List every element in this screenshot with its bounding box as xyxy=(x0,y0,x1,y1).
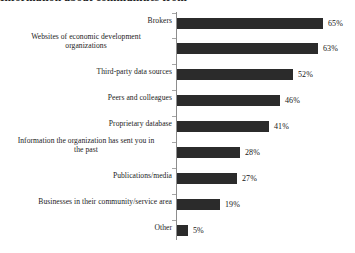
bar-value-label: 27% xyxy=(242,174,257,183)
bar-value-label: 52% xyxy=(298,70,313,79)
bar xyxy=(177,147,240,158)
bar-chart: Information about communities from Broke… xyxy=(0,0,355,253)
axis-tick xyxy=(172,220,176,221)
axis-tick xyxy=(172,90,176,91)
axis-tick xyxy=(172,168,176,169)
bar-value-label: 19% xyxy=(225,200,240,209)
category-label: Third-party data sources xyxy=(0,67,172,76)
bar xyxy=(177,18,323,29)
bar xyxy=(177,43,318,54)
bar-value-label: 28% xyxy=(245,148,260,157)
category-label: Brokers xyxy=(0,16,172,25)
bar xyxy=(177,225,188,236)
bar xyxy=(177,121,269,132)
bar xyxy=(177,199,220,210)
category-label-line: Websites of economic development xyxy=(0,32,172,41)
axis-tick xyxy=(172,13,176,14)
category-label: Businesses in their community/service ar… xyxy=(0,197,172,206)
axis-tick xyxy=(172,116,176,117)
axis-tick xyxy=(172,38,176,39)
chart-title: Information about communities from xyxy=(0,0,250,5)
category-label: Information the organization has sent yo… xyxy=(0,136,172,155)
bar xyxy=(177,69,293,80)
axis-tick xyxy=(172,64,176,65)
bar-value-label: 5% xyxy=(193,226,204,235)
bar-value-label: 41% xyxy=(274,122,289,131)
bar-value-label: 46% xyxy=(285,96,300,105)
category-label-line: the past xyxy=(0,145,172,154)
category-label: Websites of economic developmentorganiza… xyxy=(0,32,172,51)
axis-tick xyxy=(172,142,176,143)
category-label: Proprietary database xyxy=(0,119,172,128)
bar xyxy=(177,95,280,106)
category-label-line: organizations xyxy=(0,41,172,50)
category-label: Other xyxy=(0,223,172,232)
bar xyxy=(177,173,237,184)
plot-area: Brokers65%Websites of economic developme… xyxy=(0,12,355,240)
bar-value-label: 65% xyxy=(328,19,343,28)
category-label: Peers and colleagues xyxy=(0,93,172,102)
bar-value-label: 63% xyxy=(323,44,338,53)
category-label-line: Information the organization has sent yo… xyxy=(0,136,172,145)
category-label: Publications/media xyxy=(0,171,172,180)
axis-tick xyxy=(172,194,176,195)
